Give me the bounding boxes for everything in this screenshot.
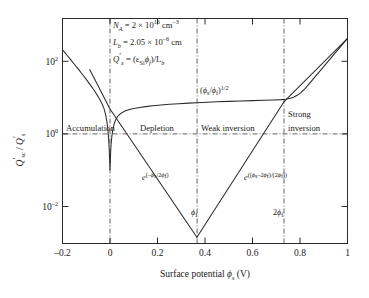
x-tick-labels: –0.2 0 0.2 0.4 0.6 0.8 1 bbox=[53, 248, 350, 258]
curve-exp-hole-branch bbox=[90, 70, 197, 238]
x-tick-label: 0.8 bbox=[294, 248, 306, 258]
annotation-exp-right: e((ϕs–2ϕf)/(2ϕf)) bbox=[244, 171, 287, 183]
chart-figure: –0.2 0 0.2 0.4 0.6 0.8 1 102 100 10–2 Q′… bbox=[0, 0, 369, 298]
x-axis-title: Surface potential ϕs (V) bbox=[160, 269, 250, 281]
axis-marker-two-phi-f: 2ϕf bbox=[273, 208, 284, 218]
param-line-na: NA = 2 × 1016 cm–3 bbox=[112, 18, 179, 32]
x-axis-title-unit: (V) bbox=[234, 269, 250, 280]
y-tick-exponent: 2 bbox=[55, 55, 58, 62]
y-tick-label: 100 bbox=[45, 127, 58, 139]
x-tick-label: –0.2 bbox=[53, 248, 71, 258]
y-tick-label: 102 bbox=[45, 55, 58, 67]
x-tick-label: 0.2 bbox=[152, 248, 164, 258]
annotation-exp-left: e(–ϕs/2ϕf) bbox=[142, 171, 169, 183]
region-label-strong-inversion-line1: Strong bbox=[288, 109, 312, 119]
y-tick-base: 10 bbox=[45, 57, 55, 67]
y-tick-exponent: –2 bbox=[51, 200, 58, 207]
param-line-lb: Lb = 2.05 × 10–6 cm bbox=[112, 35, 182, 49]
y-tick-label: 10–2 bbox=[42, 200, 58, 212]
y-tick-labels: 102 100 10–2 bbox=[42, 55, 58, 212]
region-label-strong-inversion-line2: inversion bbox=[288, 123, 321, 133]
region-label-weak-inversion: Weak inversion bbox=[201, 123, 255, 133]
region-label-depletion: Depletion bbox=[140, 123, 175, 133]
param-line-qx: Q′x = (εSiϕf)/Lb bbox=[113, 51, 164, 66]
x-tick-label: 0.6 bbox=[247, 248, 259, 258]
region-label-accumulation: Accumulation bbox=[66, 123, 115, 133]
y-axis-title-slash: / bbox=[15, 145, 25, 152]
curve-total-space-charge bbox=[63, 38, 348, 169]
y-axis-title-sub2: s bbox=[19, 133, 26, 136]
y-axis-title: Q′sc / Q′s bbox=[12, 133, 27, 166]
annotation-sqrt-branch: (ϕs/ϕf)1/2 bbox=[200, 84, 229, 97]
y-tick-base: 10 bbox=[42, 202, 52, 212]
y-tick-exponent: 0 bbox=[55, 127, 58, 134]
x-tick-label: 0 bbox=[108, 248, 113, 258]
x-tick-label: 0.4 bbox=[199, 248, 211, 258]
semilog-plot: –0.2 0 0.2 0.4 0.6 0.8 1 102 100 10–2 Q′… bbox=[0, 0, 369, 298]
y-tick-base: 10 bbox=[45, 129, 55, 139]
x-tick-label: 1 bbox=[345, 248, 350, 258]
x-axis-title-text: Surface potential bbox=[160, 269, 227, 279]
